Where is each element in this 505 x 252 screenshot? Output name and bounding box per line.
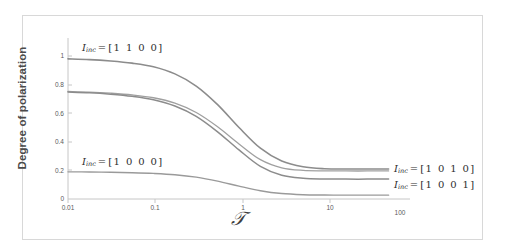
curve-i-inc-1010 [68, 91, 389, 171]
plot-canvas [0, 0, 505, 252]
tick-marks [68, 56, 330, 203]
figure-container: Degree of polarization 1 0.8 0.6 0.4 0.2… [0, 0, 505, 252]
data-curves [68, 59, 389, 195]
curve-i-inc-1000 [68, 172, 389, 195]
curve-i-inc-1100 [68, 59, 389, 169]
